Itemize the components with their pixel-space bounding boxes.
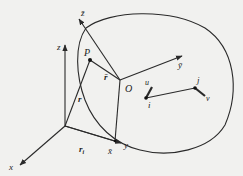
label-y-bar: ȳ bbox=[177, 60, 183, 70]
point-j bbox=[193, 86, 197, 90]
label-x: x bbox=[8, 162, 13, 172]
label-r-i: ri bbox=[79, 144, 85, 155]
label-z-bar: z̄ bbox=[80, 8, 85, 18]
label-r-bar: r̄ bbox=[104, 72, 109, 82]
fixed-frame bbox=[20, 45, 121, 165]
label-j: j bbox=[196, 75, 200, 85]
point-x-bar-end bbox=[114, 140, 117, 143]
label-v: v bbox=[206, 94, 210, 103]
u-vector bbox=[146, 87, 152, 98]
body-outline bbox=[78, 14, 234, 153]
label-i: i bbox=[148, 100, 151, 110]
label-z: z bbox=[56, 42, 61, 52]
label-r: r bbox=[78, 94, 82, 104]
i-j-segment bbox=[146, 88, 195, 98]
label-u: u bbox=[145, 78, 149, 87]
label-x-bar: x̄ bbox=[107, 146, 113, 156]
label-P: P bbox=[83, 47, 90, 58]
label-y: y bbox=[123, 140, 128, 150]
v-vector bbox=[195, 88, 205, 96]
x-axis bbox=[20, 126, 65, 165]
y-bar-axis bbox=[120, 56, 182, 80]
rigid-body-diagram: z x y z̄ ȳ x̄ O P i j r r̄ ri u v bbox=[0, 0, 243, 176]
x-bar-axis bbox=[115, 80, 120, 141]
point-P bbox=[88, 58, 92, 62]
label-O: O bbox=[125, 83, 132, 94]
